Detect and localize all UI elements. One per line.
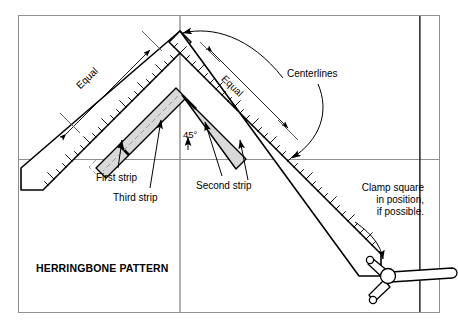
leader-centerlines	[183, 31, 323, 158]
label-third-strip: Third strip	[113, 192, 157, 204]
figure-title: HERRINGBONE PATTERN	[36, 262, 169, 274]
label-centerlines: Centerlines	[287, 68, 338, 80]
label-clamp-note: Clamp square in position, if possible.	[338, 182, 424, 217]
label-second-strip: Second strip	[196, 180, 252, 192]
label-45-degree: 45°	[183, 129, 197, 140]
diagram-canvas	[0, 0, 458, 329]
herringbone-layout-diagram: Equal Equal Centerlines 45° First strip …	[0, 0, 458, 329]
square-blade-right	[169, 31, 381, 276]
label-first-strip: First strip	[96, 172, 137, 184]
